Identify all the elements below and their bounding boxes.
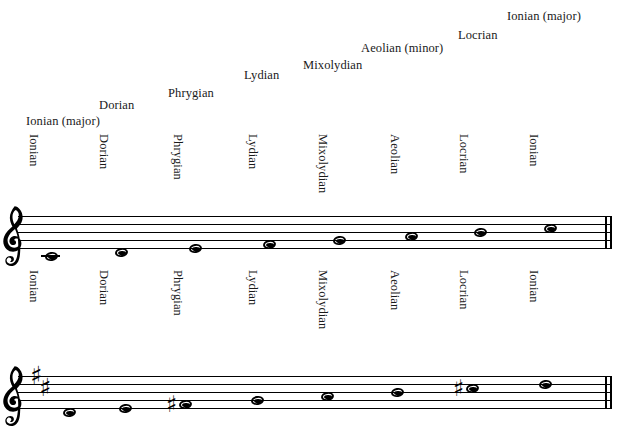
- vertical-mode-label: Mixolydian: [316, 270, 329, 329]
- diagonal-mode-label: Ionian (major): [26, 114, 100, 128]
- vertical-mode-label: Phrygian: [171, 134, 184, 180]
- barline-thin: [605, 376, 607, 409]
- staff-line: [18, 400, 612, 401]
- barline-final: [610, 376, 612, 409]
- whole-note: [118, 403, 132, 414]
- lower-staff: ♯♯♯♯: [0, 0, 623, 80]
- whole-note: [538, 379, 552, 390]
- vertical-mode-label: Dorian: [97, 270, 110, 305]
- vertical-mode-label: Ionian: [527, 270, 540, 303]
- vertical-mode-label: Locrian: [457, 134, 470, 174]
- staff-line: [18, 376, 612, 377]
- whole-note: [188, 243, 202, 254]
- diagonal-mode-label: Phrygian: [168, 86, 214, 100]
- staff-line: [18, 216, 612, 217]
- whole-note: [332, 235, 346, 246]
- vertical-mode-label: Lydian: [246, 270, 259, 305]
- staff-line: [18, 224, 612, 225]
- barline-final: [610, 216, 612, 249]
- vertical-mode-label: Lydian: [246, 134, 259, 169]
- music-notation-figure: Ionian (major)DorianPhrygianLydianMixoly…: [0, 0, 623, 433]
- staff-line: [18, 392, 612, 393]
- treble-clef-icon: [1, 205, 27, 267]
- staff-line: [18, 384, 612, 385]
- vertical-mode-label: Phrygian: [171, 270, 184, 316]
- whole-note: [473, 227, 487, 238]
- whole-note: [390, 387, 404, 398]
- vertical-mode-label: Aeolian: [388, 134, 401, 174]
- whole-note: [44, 251, 58, 262]
- vertical-mode-label: Aeolian: [388, 270, 401, 310]
- staff-line: [18, 248, 612, 249]
- staff-line: [18, 232, 612, 233]
- vertical-mode-label: Ionian: [527, 134, 540, 167]
- staff-line: [18, 408, 612, 409]
- vertical-mode-label: Ionian: [27, 134, 40, 167]
- barline-thin: [605, 216, 607, 249]
- whole-note: [250, 395, 264, 406]
- treble-clef-icon: [1, 365, 27, 427]
- diagonal-mode-label: Dorian: [99, 98, 134, 112]
- vertical-mode-label: Ionian: [27, 270, 40, 303]
- vertical-mode-label: Mixolydian: [316, 134, 329, 193]
- vertical-mode-label: Locrian: [457, 270, 470, 310]
- vertical-mode-label: Dorian: [97, 134, 110, 169]
- staff-line: [18, 240, 612, 241]
